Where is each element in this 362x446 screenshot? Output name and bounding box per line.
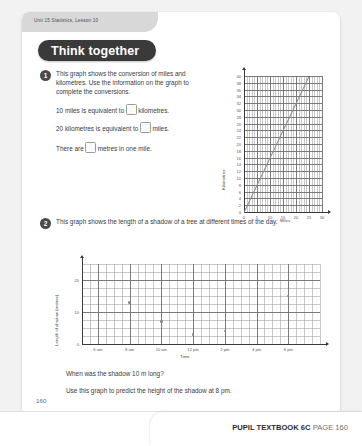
y-tick-label: 4: [239, 196, 241, 201]
think-together-banner: Think together: [38, 40, 156, 61]
q1-line2-post: miles.: [152, 125, 169, 132]
grid-line: [98, 264, 99, 344]
grid-line: [82, 296, 320, 297]
y-tick-label: 12: [236, 169, 241, 174]
x-tick-label: 12 pm: [187, 347, 198, 352]
grid-line: [82, 320, 320, 321]
answer-box-1[interactable]: [126, 104, 137, 115]
question-2-sub-2: Use this graph to predict the height of …: [66, 387, 232, 394]
footer-bar: PUPIL TEXTBOOK 6C PAGE 160: [0, 411, 362, 446]
grid-line: [244, 110, 322, 111]
q1-line3-pre: There are: [56, 145, 84, 152]
x-axis-arrow: [326, 342, 329, 346]
plot-area: [244, 76, 322, 212]
grid-line: [244, 158, 322, 159]
grid-line: [82, 336, 320, 337]
y-tick-label: 24: [236, 128, 241, 133]
y-tick-label: 34: [236, 94, 241, 99]
question-1-number: 1: [40, 70, 51, 81]
grid-line: [320, 264, 321, 344]
grid-line: [82, 264, 320, 265]
y-tick-label: 16: [236, 155, 241, 160]
footer-book: PUPIL TEXTBOOK 6C: [232, 423, 310, 432]
graph2-y-axis-title: Length of shadow (metres): [54, 295, 59, 346]
y-tick-label: 14: [236, 162, 241, 167]
x-tick-label: 6 am: [93, 347, 102, 352]
grid-line: [82, 288, 320, 289]
x-axis-arrow: [328, 210, 331, 214]
y-tick-label: 8: [239, 182, 241, 187]
grid-line: [82, 304, 320, 305]
grid-line: [82, 328, 320, 329]
grid-line: [244, 164, 322, 165]
graph1-y-axis-title: Kilometres: [221, 170, 226, 190]
footer-text: PUPIL TEXTBOOK 6C PAGE 160: [232, 423, 348, 432]
q1-line1-post: kilometres.: [138, 107, 169, 114]
y-tick-label: 26: [236, 121, 241, 126]
conversion-graph: Kilometres Miles 05101520253002468101214…: [218, 70, 330, 228]
unit-tab: Unit 15 Statistics, Lesson 10: [22, 12, 158, 32]
y-axis-arrow: [80, 255, 84, 258]
grid-line: [322, 76, 323, 212]
grid-line: [244, 96, 322, 97]
q1-line3-post: metres in one mile.: [98, 145, 152, 152]
grid-line: [244, 103, 322, 104]
grid-line: [244, 192, 322, 193]
x-axis: [82, 344, 326, 345]
x-tick-label: 10 am: [156, 347, 167, 352]
y-tick-label: 18: [236, 148, 241, 153]
q1-line1-pre: 10 miles is equivalent to: [56, 107, 124, 114]
grid-line: [244, 83, 322, 84]
grid-line: [244, 171, 322, 172]
x-tick-label: 8 am: [125, 347, 134, 352]
data-point: [160, 320, 162, 322]
y-tick-label: 0: [77, 342, 79, 347]
y-axis: [244, 70, 245, 213]
page-number: 160: [36, 397, 46, 404]
grid-line: [193, 264, 194, 344]
graph2-x-axis-title: Time: [180, 354, 189, 359]
unit-tab-label: Unit 15 Statistics, Lesson 10: [34, 18, 98, 23]
q1-line2-pre: 20 kilometres is equivalent to: [56, 125, 138, 132]
shadow-graph: Length of shadow (metres) Time 6 am8 am1…: [52, 260, 330, 360]
x-tick-label: 2 pm: [220, 347, 229, 352]
y-tick-label: 40: [236, 74, 241, 79]
y-tick-label: 10: [236, 176, 241, 181]
question-1-line-1: 10 miles is equivalent tokilometres.: [56, 104, 169, 115]
question-1-line-3: There aremetres in one mile.: [56, 142, 152, 153]
grid-line: [161, 264, 162, 344]
grid-line: [82, 272, 320, 273]
grid-line: [244, 90, 322, 91]
answer-box-2[interactable]: [140, 122, 151, 133]
grid-line: [82, 312, 320, 313]
grid-line: [244, 151, 322, 152]
grid-line: [244, 198, 322, 199]
x-axis: [244, 212, 328, 213]
data-point: [192, 333, 194, 335]
x-tick-label: 4 pm: [252, 347, 261, 352]
answer-box-3[interactable]: [85, 142, 96, 153]
y-axis: [82, 258, 83, 345]
grid-line: [130, 264, 131, 344]
grid-line: [244, 137, 322, 138]
grid-line: [244, 205, 322, 206]
footer-pill: PUPIL TEXTBOOK 6C PAGE 160: [150, 412, 362, 446]
question-1-intro: This graph shows the conversion of miles…: [56, 69, 214, 97]
question-2-number: 2: [40, 218, 51, 229]
textbook-page: Unit 15 Statistics, Lesson 10 Think toge…: [22, 12, 340, 412]
grid-line: [244, 76, 322, 77]
data-point: [128, 301, 130, 303]
grid-line: [288, 264, 289, 344]
y-tick-label: 10: [74, 310, 79, 315]
question-2-intro: This graph shows the length of a shadow …: [56, 217, 314, 226]
y-tick-label: 30: [236, 108, 241, 113]
plot-area: [82, 264, 320, 344]
grid-line: [244, 144, 322, 145]
question-2-sub-1: When was the shadow 10 m long?: [66, 370, 164, 377]
grid-line: [257, 264, 258, 344]
y-tick-label: 2: [239, 203, 241, 208]
x-tick-label: 6 pm: [284, 347, 293, 352]
grid-line: [244, 117, 322, 118]
x-tick-label: 30: [320, 215, 325, 220]
grid-line: [82, 280, 320, 281]
